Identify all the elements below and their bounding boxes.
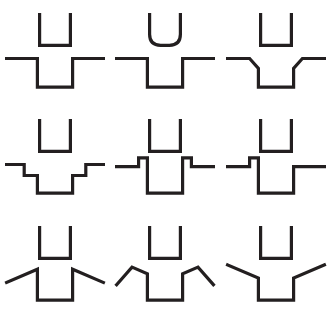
figure-r3c1: [0, 213, 110, 319]
figure-cell-r3c3: [221, 213, 331, 319]
figure-r1c3-bottom-shape: [227, 59, 324, 88]
figure-r1c3: [221, 0, 331, 106]
figure-r2c3: [221, 106, 331, 212]
figure-cell-r1c2: [110, 0, 220, 106]
figure-r2c2-top-shape: [150, 121, 181, 152]
figure-r2c3-top-shape: [260, 121, 291, 152]
figure-cell-r3c2: [110, 213, 220, 319]
figure-r1c2: [110, 0, 220, 106]
figure-r1c1-bottom-shape: [7, 59, 104, 88]
figure-cell-r3c1: [0, 213, 110, 319]
figure-r3c1-bottom-shape: [7, 269, 104, 300]
figure-r3c2-bottom-shape: [117, 267, 214, 300]
figure-r2c1-bottom-shape: [7, 165, 104, 194]
figure-r3c3-top-shape: [260, 227, 291, 258]
figure-r1c3-top-shape: [260, 15, 291, 46]
figure-r2c2-bottom-shape: [117, 158, 214, 193]
figure-r2c1-top-shape: [40, 121, 71, 152]
figure-cell-r2c2: [110, 106, 220, 212]
figure-cell-r1c1: [0, 0, 110, 106]
figure-r1c1: [0, 0, 110, 106]
figure-r3c1-top-shape: [40, 227, 71, 258]
figure-cell-r1c3: [221, 0, 331, 106]
figure-r3c2: [110, 213, 220, 319]
figure-r3c2-top-shape: [150, 227, 181, 258]
figure-r1c2-bottom-shape: [117, 59, 214, 88]
figure-r1c2-top-shape: [150, 15, 181, 46]
figure-r1c1-top-shape: [40, 15, 71, 46]
figure-r2c3-bottom-shape: [227, 158, 324, 193]
figure-grid: [0, 0, 331, 319]
figure-cell-r2c1: [0, 106, 110, 212]
figure-r3c3: [221, 213, 331, 319]
figure-r3c3-bottom-shape: [227, 265, 324, 300]
figure-r2c1: [0, 106, 110, 212]
figure-cell-r2c3: [221, 106, 331, 212]
figure-r2c2: [110, 106, 220, 212]
